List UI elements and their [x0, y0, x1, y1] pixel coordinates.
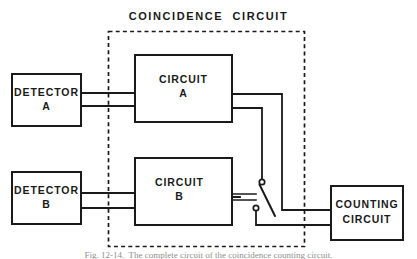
circuit-b-label-line2: B	[131, 190, 228, 202]
detector-b-label-line1: DETECTOR	[12, 184, 81, 196]
counting-circuit-label-line1: COUNTING	[331, 198, 403, 210]
wire-switch-to-counting	[256, 211, 331, 225]
circuit-b-label-line1: CIRCUIT	[131, 176, 228, 188]
coincidence-circuit-figure: COINCIDENCE CIRCUIT DETECTOR A DETECTOR …	[0, 0, 417, 259]
detector-a-label-line2: A	[12, 100, 81, 112]
circuit-a-label-line2: A	[135, 87, 232, 99]
figure-title: COINCIDENCE CIRCUIT	[0, 10, 417, 23]
detector-b-label-line2: B	[12, 198, 81, 210]
wire-circuit-a-to-counting	[232, 94, 331, 210]
wire-circuit-a-to-switch	[232, 108, 262, 179]
relay-switch-blade-icon	[260, 185, 276, 217]
detector-a-label-line1: DETECTOR	[12, 86, 81, 98]
counting-circuit-label-line2: CIRCUIT	[331, 213, 403, 225]
circuit-a-label-line1: CIRCUIT	[135, 73, 232, 85]
relay-switch-lower-terminal-icon	[253, 205, 258, 210]
figure-caption: Fig. 12-14. The complete circuit of the …	[0, 250, 417, 259]
